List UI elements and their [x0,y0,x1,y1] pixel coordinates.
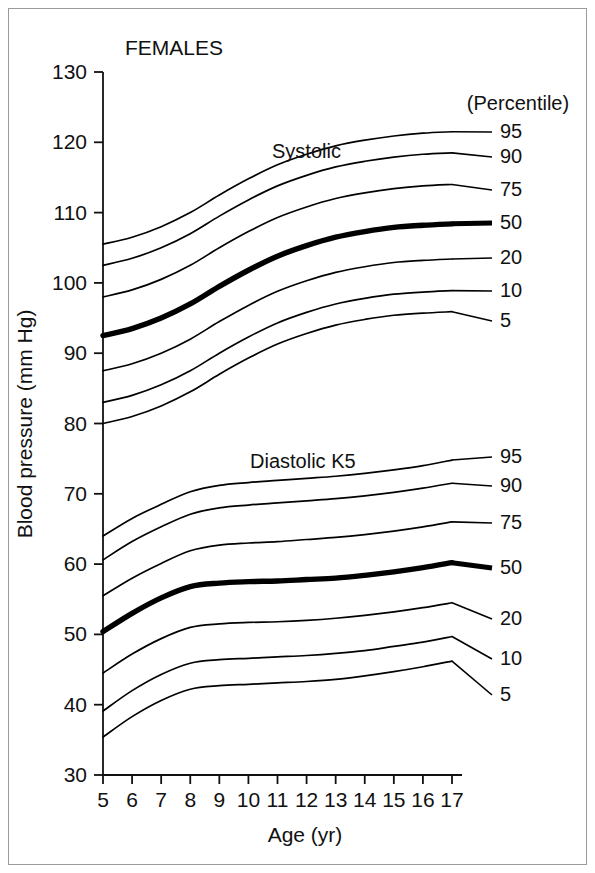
leader-line-p90 [452,483,492,486]
x-tick-label: 12 [295,788,318,811]
percentile-label-p10: 10 [500,647,522,669]
y-tick-label: 110 [54,201,87,224]
percentile-curve-p5 [103,661,452,737]
x-tick-label: 6 [126,788,138,811]
percentile-label-p50: 50 [500,556,522,578]
percentile-curve-p75 [103,522,452,596]
y-tick-label: 30 [64,763,87,786]
x-tick-label: 9 [213,788,225,811]
series-label-diastolic-k5: Diastolic K5 [250,450,356,472]
percentile-curve-p90 [103,483,452,560]
figure-container: 3040506070809010011012013056789101112131… [0,0,595,873]
percentile-label-p5: 5 [500,309,511,331]
percentile-label-p95: 95 [500,120,522,142]
percentile-label-p90: 90 [500,474,522,496]
leader-line-p75 [452,522,492,523]
curves-group [103,132,452,737]
percentile-label-p20: 20 [500,607,522,629]
percentile-curve-p10 [103,637,452,712]
y-tick-label: 130 [52,60,87,83]
x-tick-label: 7 [155,788,167,811]
leader-line-p10 [452,637,492,659]
leader-line-p20 [452,603,492,619]
percentile-curve-p20 [103,603,452,673]
percentile-curve-p90 [103,153,452,265]
percentile-label-p75: 75 [500,511,522,533]
percentile-label-p10: 10 [500,279,522,301]
panel-label: FEMALES [125,36,223,59]
legend-title: (Percentile) [467,92,569,114]
x-axis-title: Age (yr) [268,823,343,846]
percentile-label-p75: 75 [500,178,522,200]
percentile-curve-p50 [103,224,452,336]
leader-line-p50 [452,223,492,224]
y-tick-label: 70 [64,482,87,505]
y-tick-label: 80 [64,412,87,435]
x-tick-label: 13 [324,788,347,811]
leader-line-p50 [452,563,492,568]
y-tick-label: 50 [64,622,87,645]
labels-group: 95907550201059590755020105SystolicDiasto… [250,120,522,705]
percentile-label-p90: 90 [500,145,522,167]
x-tick-label: 15 [382,788,405,811]
leader-line-p90 [452,153,492,157]
leader-line-p5 [452,661,492,695]
y-axis-title: Blood pressure (mm Hg) [13,310,36,539]
y-tick-label: 60 [64,552,87,575]
y-tick-label: 90 [64,341,87,364]
percentile-label-p20: 20 [500,246,522,268]
y-tick-label: 100 [52,271,87,294]
x-tick-label: 11 [267,788,289,811]
percentile-label-p5: 5 [500,683,511,705]
x-tick-label: 16 [411,788,434,811]
leader-line-p95 [452,457,492,460]
percentile-label-p50: 50 [500,211,522,233]
series-label-systolic: Systolic [272,140,341,162]
y-tick-label: 120 [52,130,87,153]
x-tick-label: 17 [440,788,463,811]
percentile-curve-p75 [103,184,452,296]
y-tick-label: 40 [64,693,87,716]
leader-line-p75 [452,184,492,190]
x-tick-label: 8 [184,788,196,811]
x-tick-label: 10 [237,788,260,811]
x-tick-label: 14 [353,788,377,811]
blood-pressure-percentile-chart: 3040506070809010011012013056789101112131… [0,0,595,873]
leader-line-p20 [452,258,492,259]
percentile-label-p95: 95 [500,445,522,467]
x-tick-label: 5 [97,788,109,811]
percentile-curve-p5 [103,312,452,424]
percentile-curve-p10 [103,291,452,403]
leader-line-p5 [452,312,492,321]
axes-group: 3040506070809010011012013056789101112131… [52,60,464,811]
